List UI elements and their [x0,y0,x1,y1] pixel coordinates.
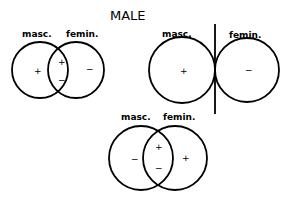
femin-label: femin. [163,112,195,122]
diagram-canvas: MALE masc. femin. + + − − masc. femin. +… [0,0,293,202]
masc-circle [109,126,173,190]
sign-femin: − [245,65,253,75]
femin-circle [143,126,207,190]
sign-masc-only: − [131,154,139,164]
sign-overlap-bottom: − [58,75,66,85]
masc-label: masc. [22,29,52,39]
femin-circle [48,42,104,98]
venn-diagrams: MALE masc. femin. + + − − masc. femin. +… [0,0,293,202]
diagram-overlapping-1: masc. femin. + + − − [12,29,104,98]
femin-label: femin. [66,29,98,39]
sign-overlap-top: + [155,142,163,152]
sign-femin-only: − [86,64,94,74]
diagram-separated: masc. femin. + − [149,24,279,114]
sign-overlap-top: + [58,57,66,67]
sign-overlap-bottom: − [155,163,163,173]
sign-masc-only: + [34,66,42,76]
sign-femin-only: + [182,153,190,163]
title: MALE [110,8,146,23]
sign-masc: + [180,66,188,76]
masc-label: masc. [121,112,151,122]
diagram-overlapping-2: masc. femin. − + − + [109,112,207,190]
